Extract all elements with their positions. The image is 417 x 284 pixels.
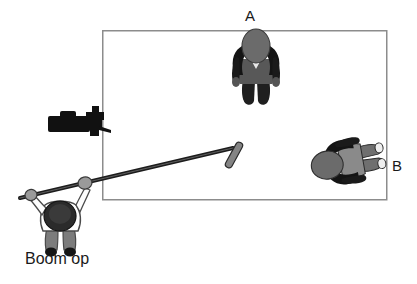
- film-camera: [48, 106, 111, 136]
- grip-right-hand: [77, 176, 93, 191]
- boom-pole-assembly: [20, 141, 244, 198]
- set-layout-illustration: [0, 0, 417, 284]
- actor-a-head: [242, 29, 270, 63]
- diagram-canvas: A B Boom op: [0, 0, 417, 284]
- actor-a-figure: [232, 29, 280, 105]
- boom-operator-label: Boom op: [25, 251, 89, 267]
- boom-microphone: [224, 141, 244, 169]
- actor-b-label: B: [392, 158, 402, 173]
- actor-b-figure: [308, 132, 389, 190]
- actor-a-label: A: [245, 8, 255, 23]
